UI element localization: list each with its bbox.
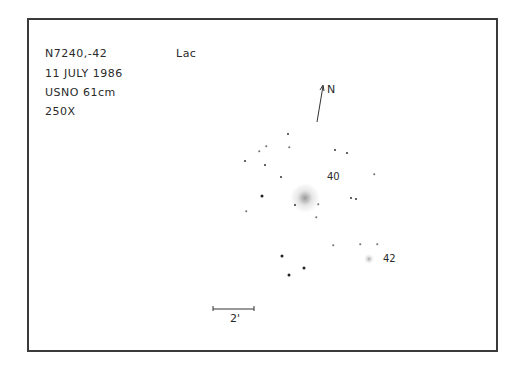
star — [350, 197, 352, 199]
star — [332, 244, 334, 246]
star — [281, 255, 284, 258]
star — [264, 164, 266, 166]
north-arrow-icon — [317, 85, 324, 122]
star — [346, 152, 348, 154]
star — [317, 203, 319, 205]
star — [373, 173, 375, 175]
star — [245, 210, 247, 212]
star — [376, 243, 378, 245]
star — [303, 267, 306, 270]
star — [261, 195, 264, 198]
star — [288, 274, 291, 277]
star — [258, 150, 260, 152]
galaxy-42 — [364, 254, 374, 264]
star — [359, 243, 361, 245]
star — [244, 160, 246, 162]
star — [280, 176, 282, 178]
star — [294, 204, 296, 206]
star — [287, 133, 289, 135]
scale-bar-icon — [213, 306, 254, 311]
star — [334, 149, 336, 151]
star — [315, 216, 317, 218]
star — [288, 146, 290, 148]
galaxy-label: 40 — [327, 172, 340, 182]
north-label: N — [327, 84, 335, 95]
annotation-overlay — [0, 0, 523, 370]
scale-label: 2' — [230, 313, 240, 324]
star — [355, 198, 357, 200]
star — [265, 145, 267, 147]
galaxy-label: 42 — [383, 254, 396, 264]
galaxy-N7240 — [290, 183, 320, 213]
